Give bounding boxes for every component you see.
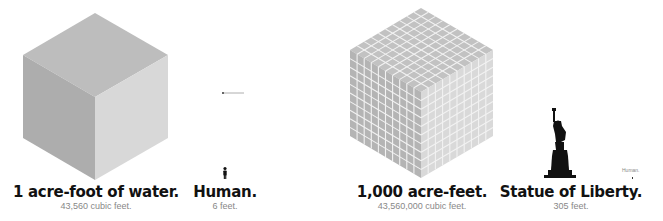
statue-of-liberty-icon xyxy=(544,108,576,178)
thousand-acre-feet-caption: 1,000 acre-feet. 43,560,000 cubic feet. xyxy=(357,184,487,212)
thousand-acre-feet-cube xyxy=(350,8,493,178)
scale-line-icon xyxy=(222,92,244,94)
human-caption: Human. 6 feet. xyxy=(193,184,257,212)
caption-subtitle: 43,560 cubic feet. xyxy=(13,201,179,212)
acre-foot-cube xyxy=(23,13,168,180)
caption-title: Human. xyxy=(193,184,257,201)
caption-subtitle: 43,560,000 cubic feet. xyxy=(357,201,487,212)
human-scale-label: Human. xyxy=(622,167,640,173)
caption-subtitle: 305 feet. xyxy=(500,201,642,212)
caption-title: 1,000 acre-feet. xyxy=(357,184,487,201)
caption-title: Statue of Liberty. xyxy=(500,184,642,201)
acre-foot-caption: 1 acre-foot of water. 43,560 cubic feet. xyxy=(13,184,179,212)
tiny-human-icon xyxy=(632,177,633,179)
caption-subtitle: 6 feet. xyxy=(193,201,257,212)
caption-title: 1 acre-foot of water. xyxy=(13,184,179,201)
human-icon xyxy=(223,167,226,179)
statue-caption: Statue of Liberty. 305 feet. xyxy=(500,184,642,212)
